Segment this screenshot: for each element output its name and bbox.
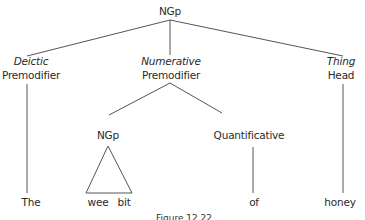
tree-diagram [0, 0, 365, 220]
node-quantificative: Quantificative [214, 129, 285, 142]
edge-numerative-quantificative [170, 83, 222, 113]
triangle-ngp-collapsed [86, 146, 132, 193]
node-root-ngp: NGp [159, 5, 181, 18]
node-numerative-role: Premodifier [142, 69, 200, 82]
leaf-bit: bit [117, 196, 130, 209]
node-deictic-role: Premodifier [2, 69, 60, 82]
node-numerative-function: Numerative [141, 55, 201, 68]
node-thing-function: Thing [327, 55, 355, 68]
leaf-the: The [22, 196, 41, 209]
node-sub-ngp: NGp [97, 129, 119, 142]
leaf-honey: honey [324, 196, 355, 209]
edge-root-thing [170, 20, 343, 56]
figure-caption: Figure 12.22 [156, 213, 212, 220]
edge-root-deictic [27, 20, 170, 56]
leaf-wee: wee [88, 196, 109, 209]
leaf-of: of [249, 196, 259, 209]
edge-numerative-ngp [109, 83, 170, 115]
node-thing-role: Head [328, 69, 355, 82]
node-deictic-function: Deictic [14, 55, 49, 68]
